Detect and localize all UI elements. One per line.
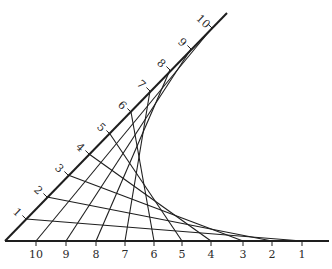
baseline-label-7: 7 bbox=[122, 248, 129, 261]
slant-label-10: 10 bbox=[194, 12, 213, 31]
stitch-line-5 bbox=[110, 134, 182, 241]
baseline-label-1: 1 bbox=[299, 248, 306, 261]
stitch-line-3 bbox=[68, 175, 243, 241]
baseline-label-6: 6 bbox=[151, 248, 158, 261]
diagram-canvas: 1098765432112345678910 bbox=[0, 0, 332, 269]
baseline-label-2: 2 bbox=[269, 248, 276, 261]
slant-label-7: 7 bbox=[134, 77, 148, 91]
slant-tick-4 bbox=[85, 151, 89, 154]
slant-label-9: 9 bbox=[175, 35, 189, 49]
slant-tick-6 bbox=[127, 109, 131, 112]
slant-label-1: 1 bbox=[10, 205, 24, 219]
baseline-label-4: 4 bbox=[208, 248, 215, 261]
slant-label-3: 3 bbox=[52, 161, 66, 175]
slant-axis bbox=[5, 13, 227, 241]
slant-tick-1 bbox=[22, 216, 26, 219]
slant-tick-8 bbox=[166, 67, 170, 70]
slant-label-5: 5 bbox=[94, 120, 108, 134]
slant-label-2: 2 bbox=[31, 183, 45, 197]
slant-tick-2 bbox=[43, 194, 47, 197]
baseline-label-8: 8 bbox=[93, 248, 100, 261]
curve-stitching-diagram: 1098765432112345678910 bbox=[0, 0, 332, 269]
baseline-label-5: 5 bbox=[179, 248, 186, 261]
stitch-line-10 bbox=[36, 28, 212, 241]
slant-tick-7 bbox=[146, 88, 150, 91]
slant-tick-9 bbox=[187, 46, 191, 49]
tick-labels: 1098765432112345678910 bbox=[10, 12, 305, 261]
slant-tick-3 bbox=[64, 172, 68, 175]
baseline-label-9: 9 bbox=[63, 248, 70, 261]
stitch-line-6 bbox=[131, 112, 154, 241]
slant-label-8: 8 bbox=[154, 56, 168, 70]
baseline-label-3: 3 bbox=[240, 248, 247, 261]
stitch-line-4 bbox=[89, 154, 211, 241]
slant-label-6: 6 bbox=[115, 98, 129, 112]
axes bbox=[5, 13, 329, 241]
baseline-label-10: 10 bbox=[29, 248, 43, 261]
stitch-line-1 bbox=[26, 219, 302, 241]
slant-label-4: 4 bbox=[73, 140, 87, 154]
slant-tick-5 bbox=[106, 131, 110, 134]
